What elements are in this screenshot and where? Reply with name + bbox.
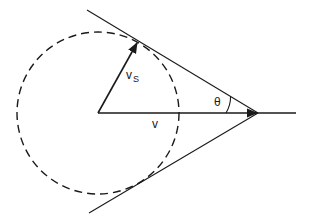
v-label: v	[152, 118, 158, 130]
upper-tangent-line	[87, 10, 258, 113]
diagram-canvas: vS v θ	[0, 0, 313, 222]
vs-label-main: v	[126, 68, 132, 82]
theta-label: θ	[214, 96, 221, 108]
theta-angle-arc	[226, 97, 231, 114]
lower-tangent-line	[89, 113, 258, 213]
theta-label-text: θ	[214, 95, 221, 109]
vs-label-subscript: S	[133, 74, 139, 84]
v-label-text: v	[152, 117, 158, 131]
diagram-svg	[0, 0, 313, 222]
vs-label: vS	[126, 69, 139, 81]
